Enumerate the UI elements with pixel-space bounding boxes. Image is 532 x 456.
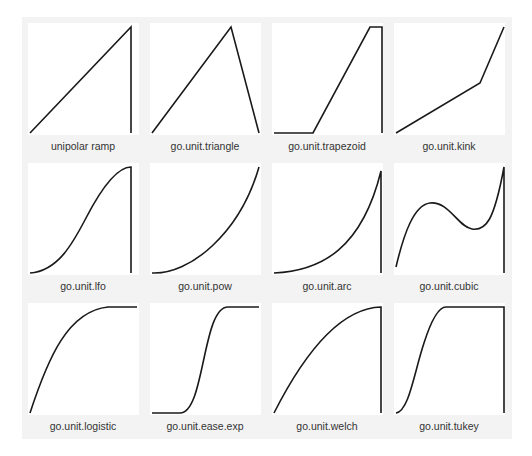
- panel-pow: go.unit.pow: [144, 157, 266, 297]
- plot-area: [150, 303, 261, 415]
- panel-label: go.unit.pow: [144, 276, 266, 296]
- panel-label: go.unit.triangle: [144, 136, 266, 156]
- panel-label: go.unit.welch: [266, 416, 388, 436]
- curve-plot: [272, 303, 383, 415]
- plot-area: [150, 163, 261, 275]
- plot-area: [28, 303, 139, 415]
- panel-label: go.unit.arc: [266, 276, 388, 296]
- panel-triangle: go.unit.triangle: [144, 17, 266, 157]
- panel-label: go.unit.tukey: [388, 416, 510, 436]
- panel-tukey: go.unit.tukey: [388, 297, 510, 437]
- panel-welch: go.unit.welch: [266, 297, 388, 437]
- plot-area: [272, 163, 383, 275]
- plot-area: [28, 163, 139, 275]
- curve-plot: [28, 23, 139, 135]
- plot-area: [394, 163, 505, 275]
- curve-plot: [28, 163, 139, 275]
- panel-label: go.unit.kink: [388, 136, 510, 156]
- curve-plot: [394, 163, 505, 275]
- panel-label: unipolar ramp: [22, 136, 144, 156]
- panel-label: go.unit.trapezoid: [266, 136, 388, 156]
- curve-plot: [150, 303, 261, 415]
- curve-plot: [394, 303, 505, 415]
- panel-label: go.unit.logistic: [22, 416, 144, 436]
- curve-plot: [150, 163, 261, 275]
- curve-grid: unipolar ramp go.unit.triangle go.unit.t…: [22, 17, 512, 439]
- curve-plot: [28, 303, 139, 415]
- curve-plot: [150, 23, 261, 135]
- panel-ease-exp: go.unit.ease.exp: [144, 297, 266, 437]
- plot-area: [394, 303, 505, 415]
- curve-plot: [272, 163, 383, 275]
- curve-plot: [394, 23, 505, 135]
- panel-arc: go.unit.arc: [266, 157, 388, 297]
- plot-area: [150, 23, 261, 135]
- panel-unipolar-ramp: unipolar ramp: [22, 17, 144, 157]
- plot-area: [394, 23, 505, 135]
- panel-trapezoid: go.unit.trapezoid: [266, 17, 388, 157]
- panel-logistic: go.unit.logistic: [22, 297, 144, 437]
- panel-label: go.unit.lfo: [22, 276, 144, 296]
- panel-label: go.unit.cubic: [388, 276, 510, 296]
- panel-kink: go.unit.kink: [388, 17, 510, 157]
- plot-area: [272, 23, 383, 135]
- panel-lfo: go.unit.lfo: [22, 157, 144, 297]
- panel-label: go.unit.ease.exp: [144, 416, 266, 436]
- panel-cubic: go.unit.cubic: [388, 157, 510, 297]
- plot-area: [272, 303, 383, 415]
- curve-plot: [272, 23, 383, 135]
- plot-area: [28, 23, 139, 135]
